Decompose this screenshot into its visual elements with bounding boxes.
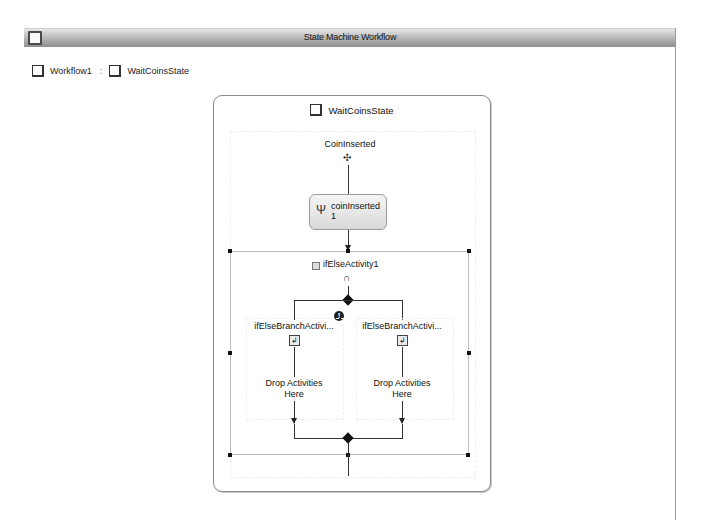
connector-line <box>348 230 349 246</box>
breadcrumb: Workflow1 : WaitCoinsState <box>32 64 189 78</box>
event-driven-icon: ✣ <box>343 153 351 163</box>
ifelse-branch-2[interactable] <box>356 318 454 420</box>
designer-title-bar: State Machine Workflow <box>24 28 676 47</box>
state-square-icon <box>109 65 121 77</box>
state-name: WaitCoinsState <box>328 105 393 116</box>
branch-split-line <box>294 300 402 301</box>
connector-line <box>294 424 295 438</box>
drop-text-line2: Here <box>392 389 412 399</box>
resize-handle-bottom-right[interactable] <box>466 453 470 457</box>
ifelse-label: ifElseActivity1 <box>323 259 379 269</box>
connector-line <box>402 424 403 438</box>
activity-label-line2: 1 <box>331 211 336 221</box>
workflow-designer-canvas: State Machine Workflow Workflow1 : WaitC… <box>0 0 710 532</box>
branch-icon: ↲ <box>397 335 408 346</box>
connector-line <box>402 300 403 320</box>
branch-icon: ↲ <box>289 335 300 346</box>
resize-handle-middle-left[interactable] <box>228 351 232 355</box>
event-driven-label: CoinInserted <box>310 139 390 149</box>
resize-handle-middle-right[interactable] <box>467 351 471 355</box>
resize-handle-bottom-left[interactable] <box>228 453 232 457</box>
breadcrumb-label: Workflow1 <box>50 66 92 76</box>
collapse-toggle-icon[interactable] <box>312 262 320 270</box>
connector-line <box>348 165 349 194</box>
resize-handle-top-center[interactable] <box>346 249 350 253</box>
if-else-icon: ∩ <box>343 273 350 283</box>
state-square-icon <box>32 65 44 77</box>
connector-line <box>402 347 403 377</box>
activity-label: coinInserted 1 <box>331 201 387 221</box>
connector-line <box>348 442 349 476</box>
drop-text-line1: Drop Activities <box>265 378 322 388</box>
breadcrumb-label: WaitCoinsState <box>127 66 189 76</box>
breadcrumb-separator: : <box>100 66 103 76</box>
designer-title: State Machine Workflow <box>24 32 676 42</box>
drop-text-line1: Drop Activities <box>373 378 430 388</box>
drop-zone-text[interactable]: Drop Activities Here <box>362 378 442 400</box>
connector-line <box>294 300 295 320</box>
activity-label-line1: coinInserted <box>331 201 380 211</box>
connector-line <box>294 347 295 377</box>
drop-text-line2: Here <box>284 389 304 399</box>
state-square-icon <box>310 104 322 116</box>
activity-coininserted1[interactable]: Ψ coinInserted 1 <box>309 194 387 230</box>
branch-label: ifElseBranchActivi... <box>354 321 450 331</box>
branch-label: ifElseBranchActivi... <box>246 321 342 331</box>
ifelse-branch-1[interactable] <box>246 318 344 420</box>
resize-handle-top-left[interactable] <box>228 249 232 253</box>
breadcrumb-item-waitcoinsstate[interactable]: WaitCoinsState <box>109 65 189 77</box>
resize-handle-top-right[interactable] <box>467 249 471 253</box>
breadcrumb-item-workflow1[interactable]: Workflow1 <box>32 65 92 77</box>
designer-right-border <box>675 28 676 520</box>
drop-zone-text[interactable]: Drop Activities Here <box>254 378 334 400</box>
handle-external-event-icon: Ψ <box>316 204 326 216</box>
state-header: WaitCoinsState <box>214 104 490 116</box>
